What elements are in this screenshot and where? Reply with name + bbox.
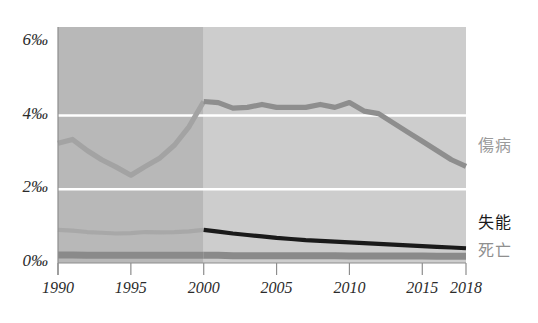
x-tick-label-x1990: 1990: [42, 279, 74, 297]
x-tick-label-x2010: 2010: [333, 279, 365, 297]
x-tick-label-x1995: 1995: [115, 279, 147, 297]
series-label-injury: 傷病: [478, 132, 512, 156]
y-tick-label-y4: 4‰: [0, 104, 48, 124]
y-tick-label-y6: 6‰: [0, 30, 48, 50]
chart-container: 6‰4‰2‰0‰ 1990199520002005201020152018 傷病…: [0, 0, 538, 323]
x-tick-label-x2000: 2000: [188, 279, 220, 297]
x-tick-label-x2015: 2015: [406, 279, 438, 297]
y-tick-label-y2: 2‰: [0, 177, 48, 197]
x-tick-label-x2018: 2018: [450, 279, 482, 297]
axis-ticks: [58, 263, 466, 275]
shaded-bands: [58, 27, 466, 263]
line-chart-plot: [0, 0, 538, 323]
y-tick-label-y0: 0‰: [0, 251, 48, 271]
series-label-death: 死亡: [478, 237, 512, 261]
series-label-disability: 失能: [478, 209, 512, 233]
x-tick-label-x2005: 2005: [261, 279, 293, 297]
series-path-死亡-post2000: [204, 255, 466, 256]
